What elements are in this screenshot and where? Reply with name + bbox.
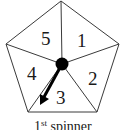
section-label-3: 3 [56,87,66,108]
caption-prefix: 1 [34,119,41,130]
section-label-4: 4 [27,63,37,84]
spinner-hub [56,58,69,71]
section-label-2: 2 [88,68,98,89]
spinner-caption: 1st spinner [34,118,92,130]
caption-suffix: spinner [47,119,92,130]
section-label-5: 5 [41,28,51,49]
section-label-1: 1 [77,30,87,51]
spinner-diagram: 5 1 2 3 4 1st spinner [0,0,123,130]
